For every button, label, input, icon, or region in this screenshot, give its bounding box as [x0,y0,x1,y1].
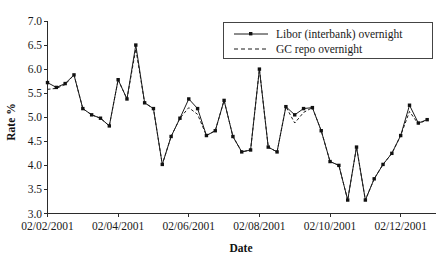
legend: Libor (interbank) overnight GC repo over… [224,23,433,59]
data-point-marker [205,134,208,137]
data-point-marker [275,150,278,153]
x-tick-label: 02/02/2001 [21,220,74,232]
data-point-marker [311,106,314,109]
y-tick-label: 3.0 [28,208,43,220]
y-tick-label: 6.5 [28,39,43,51]
data-point-marker [63,82,66,85]
legend-label-gc-repo-overnight: GC repo overnight [276,43,363,56]
x-tick-label: 02/12/2001 [375,220,428,232]
series-line-gc-repo-overnight [48,49,428,200]
y-axis-tick-marks [44,21,48,214]
data-point-marker [72,73,75,76]
data-point-marker [364,198,367,201]
y-tick-label: 5.0 [28,111,43,123]
x-axis-tick-labels: 02/02/200102/04/200102/06/200102/08/2001… [21,220,427,232]
x-axis-title: Date [230,242,253,254]
y-axis-tick-labels: 7.06.56.05.55.04.54.03.53.0 [28,15,43,220]
x-axis-tick-marks [48,214,401,218]
data-point-marker [381,163,384,166]
data-point-marker [55,86,58,89]
legend-swatch-square-marker [249,32,252,35]
data-point-marker [134,43,137,46]
data-point-marker [99,117,102,120]
data-point-marker [240,150,243,153]
data-point-marker [125,97,128,100]
chart-figure: 7.06.56.05.55.04.54.03.53.0 02/02/200102… [0,0,442,262]
line-chart: 7.06.56.05.55.04.54.03.53.0 02/02/200102… [0,0,442,262]
data-point-marker [116,78,119,81]
x-tick-label: 02/10/2001 [304,220,357,232]
data-point-marker [222,99,225,102]
data-point-marker [267,145,270,148]
y-tick-label: 6.0 [28,63,43,75]
data-point-marker [161,163,164,166]
data-point-marker [258,67,261,70]
data-point-marker [108,124,111,127]
data-point-marker [249,148,252,151]
data-point-marker [169,135,172,138]
data-point-marker [46,81,49,84]
y-axis-title: Rate % [5,103,17,140]
data-point-marker [284,105,287,108]
y-tick-label: 4.0 [28,159,43,171]
data-point-marker [196,107,199,110]
data-point-marker [90,113,93,116]
y-tick-label: 5.5 [28,87,43,99]
series-markers-libor-overnight [46,43,429,201]
data-point-marker [408,104,411,107]
x-tick-label: 02/04/2001 [92,220,145,232]
data-point-marker [337,164,340,167]
data-point-marker [355,145,358,148]
data-point-marker [81,107,84,110]
y-tick-label: 4.5 [28,135,43,147]
y-tick-label: 7.0 [28,15,43,27]
series-line-libor-overnight [48,45,428,200]
data-point-marker [399,134,402,137]
data-point-marker [390,152,393,155]
data-point-marker [328,160,331,163]
data-point-marker [214,129,217,132]
data-point-marker [178,117,181,120]
legend-label-libor-overnight: Libor (interbank) overnight [276,28,403,41]
x-tick-label: 02/08/2001 [233,220,286,232]
data-point-marker [320,129,323,132]
data-point-marker [152,107,155,110]
data-point-marker [302,107,305,110]
data-point-marker [372,177,375,180]
data-point-marker [417,121,420,124]
data-point-marker [187,97,190,100]
data-point-marker [425,118,428,121]
y-tick-label: 3.5 [28,183,43,195]
data-point-marker [293,113,296,116]
data-point-marker [143,101,146,104]
data-point-marker [346,198,349,201]
x-tick-label: 02/06/2001 [163,220,216,232]
data-point-marker [231,135,234,138]
